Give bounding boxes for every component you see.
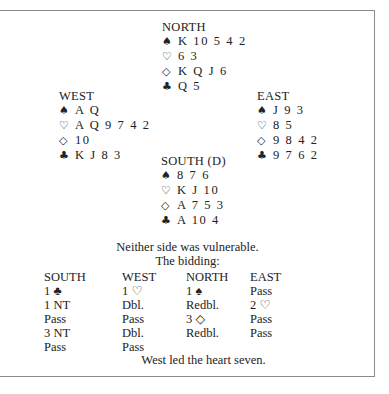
bidding-label: The bidding: bbox=[0, 254, 375, 268]
bid: 1 ♡ bbox=[122, 284, 156, 298]
east-hearts: 8 5 bbox=[273, 118, 293, 132]
bid: 1 NT bbox=[44, 298, 86, 312]
bidding-column-east: EAST Pass 2 ♡ Pass Pass bbox=[250, 270, 281, 340]
hand-west: WEST ♠A Q ♡A Q 9 7 4 2 ◇10 ♣K J 8 3 bbox=[59, 89, 151, 163]
diamond-icon: ◇ bbox=[162, 65, 178, 79]
south-hearts: K J 10 bbox=[177, 183, 219, 197]
heart-icon: ♡ bbox=[257, 119, 273, 133]
vulnerability-note: Neither side was vulnerable. bbox=[0, 240, 375, 254]
bid: Pass bbox=[250, 284, 281, 298]
club-icon: ♣ bbox=[161, 214, 177, 228]
bid: 3 ◇ bbox=[186, 312, 228, 326]
west-hearts: A Q 9 7 4 2 bbox=[75, 118, 151, 132]
diamond-icon: ◇ bbox=[161, 199, 177, 213]
west-clubs: K J 8 3 bbox=[75, 148, 122, 162]
diamond-icon: ◇ bbox=[257, 134, 273, 148]
south-diamonds: A 7 5 3 bbox=[177, 198, 225, 212]
bid: Pass bbox=[44, 340, 86, 354]
south-spades: 8 7 6 bbox=[177, 168, 210, 182]
east-diamonds: 9 8 4 2 bbox=[273, 133, 319, 147]
bid: Pass bbox=[44, 312, 86, 326]
bid: 3 NT bbox=[44, 326, 86, 340]
hand-south: SOUTH (D) ♠8 7 6 ♡K J 10 ◇A 7 5 3 ♣A 10 … bbox=[161, 154, 226, 228]
club-icon: ♣ bbox=[257, 149, 273, 163]
south-clubs: A 10 4 bbox=[177, 213, 220, 227]
club-icon: ♣ bbox=[162, 80, 178, 94]
bid: Pass bbox=[122, 312, 156, 326]
hand-east: EAST ♠J 9 3 ♡8 5 ◇9 8 4 2 ♣9 7 6 2 bbox=[257, 89, 319, 163]
east-clubs: 9 7 6 2 bbox=[273, 148, 319, 162]
north-clubs: Q 5 bbox=[178, 79, 201, 93]
diamond-icon: ◇ bbox=[59, 134, 75, 148]
heart-icon: ♡ bbox=[59, 119, 75, 133]
bidding-header-west: WEST bbox=[122, 270, 156, 284]
bid: Dbl. bbox=[122, 298, 156, 312]
bid: Redbl. bbox=[186, 298, 228, 312]
bid: Redbl. bbox=[186, 326, 228, 340]
heart-icon: ♡ bbox=[162, 50, 178, 64]
west-diamonds: 10 bbox=[75, 133, 91, 147]
hand-west-label: WEST bbox=[59, 89, 151, 103]
bid: Pass bbox=[250, 312, 281, 326]
bid: 1 ♠ bbox=[186, 284, 228, 298]
bidding-column-south: SOUTH 1 ♣ 1 NT Pass 3 NT Pass bbox=[44, 270, 86, 354]
spade-icon: ♠ bbox=[257, 104, 273, 118]
north-diamonds: K Q J 6 bbox=[178, 64, 228, 78]
hand-east-label: EAST bbox=[257, 89, 319, 103]
hand-north: NORTH ♠K 10 5 4 2 ♡6 3 ◇K Q J 6 ♣Q 5 bbox=[162, 20, 247, 94]
bid: 2 ♡ bbox=[250, 298, 281, 312]
spade-icon: ♠ bbox=[161, 169, 177, 183]
north-hearts: 6 3 bbox=[178, 49, 198, 63]
heart-icon: ♡ bbox=[161, 184, 177, 198]
bid: 1 ♣ bbox=[44, 284, 86, 298]
bidding-header-north: NORTH bbox=[186, 270, 228, 284]
north-spades: K 10 5 4 2 bbox=[178, 34, 247, 48]
bid: Dbl. bbox=[122, 326, 156, 340]
bidding-header-east: EAST bbox=[250, 270, 281, 284]
bid: Pass bbox=[122, 340, 156, 354]
hand-north-label: NORTH bbox=[162, 20, 247, 34]
bidding-column-north: NORTH 1 ♠ Redbl. 3 ◇ Redbl. bbox=[186, 270, 228, 340]
west-spades: A Q bbox=[75, 103, 100, 117]
bidding-header-south: SOUTH bbox=[44, 270, 86, 284]
bidding-column-west: WEST 1 ♡ Dbl. Pass Dbl. Pass bbox=[122, 270, 156, 354]
club-icon: ♣ bbox=[59, 149, 75, 163]
bid: Pass bbox=[250, 326, 281, 340]
east-spades: J 9 3 bbox=[273, 103, 305, 117]
spade-icon: ♠ bbox=[162, 35, 178, 49]
hand-south-label: SOUTH (D) bbox=[161, 154, 226, 168]
opening-lead-note: West led the heart seven. bbox=[16, 353, 389, 367]
spade-icon: ♠ bbox=[59, 104, 75, 118]
